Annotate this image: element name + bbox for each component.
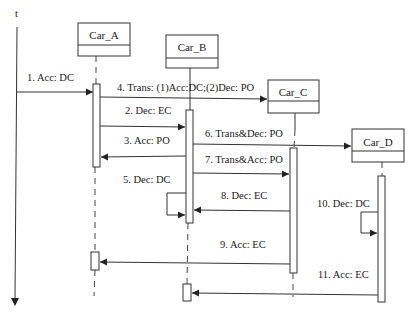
lifeline-car-a-end bbox=[94, 270, 95, 296]
message-9: 9. Acc: EC bbox=[100, 239, 290, 264]
message-label: 7. Trans&Acc: PO bbox=[205, 154, 283, 165]
object-label: Car_B bbox=[178, 41, 207, 53]
object-label: Car_A bbox=[89, 29, 118, 41]
lifeline-car-b-mid bbox=[187, 223, 188, 284]
message-8: 8. Dec: EC bbox=[194, 190, 290, 211]
message-label: 9. Acc: EC bbox=[220, 239, 266, 250]
sequence-diagram: t Car_A Car_B Car_C Car_D bbox=[0, 0, 418, 318]
activation-car-d bbox=[378, 176, 385, 302]
message-6: 6. Trans&Dec: PO bbox=[193, 128, 351, 146]
activation-car-b-2 bbox=[183, 284, 191, 301]
time-axis: t bbox=[11, 8, 19, 306]
message-label: 5. Dec: DC bbox=[123, 174, 171, 185]
message-label: 10. Dec: DC bbox=[317, 198, 370, 209]
message-10-self: 10. Dec: DC bbox=[317, 198, 378, 233]
message-5-self: 5. Dec: DC bbox=[123, 174, 186, 215]
object-label: Car_D bbox=[363, 136, 392, 148]
object-car-c: Car_C bbox=[268, 80, 319, 113]
message-label: 1. Acc: DC bbox=[27, 72, 74, 83]
message-label: 8. Dec: EC bbox=[221, 190, 267, 201]
message-1: 1. Acc: DC bbox=[17, 72, 93, 92]
object-label: Car_C bbox=[279, 86, 308, 98]
activation-car-a-2 bbox=[91, 252, 99, 270]
object-car-d: Car_D bbox=[352, 129, 404, 162]
message-label: 4. Trans: (1)Acc:DC;(2)Dec: PO bbox=[117, 82, 254, 94]
activation-car-b bbox=[186, 110, 193, 223]
time-axis-label: t bbox=[15, 8, 18, 19]
message-label: 2. Dec: EC bbox=[125, 105, 171, 116]
object-car-a: Car_A bbox=[78, 23, 130, 56]
time-axis-line bbox=[15, 27, 17, 300]
object-car-b: Car_B bbox=[166, 35, 218, 68]
message-label: 6. Trans&Dec: PO bbox=[205, 128, 283, 139]
message-11: 11. Acc: EC bbox=[192, 269, 378, 295]
message-3: 3. Acc: PO bbox=[101, 135, 186, 157]
message-2: 2. Dec: EC bbox=[100, 105, 185, 127]
time-arrow-down-icon bbox=[11, 298, 19, 306]
message-4: 4. Trans: (1)Acc:DC;(2)Dec: PO bbox=[100, 82, 267, 99]
message-7: 7. Trans&Acc: PO bbox=[193, 154, 289, 174]
activation-car-c bbox=[290, 148, 297, 273]
activation-car-a bbox=[93, 84, 100, 167]
message-label: 3. Acc: PO bbox=[124, 135, 170, 146]
message-label: 11. Acc: EC bbox=[318, 269, 369, 280]
